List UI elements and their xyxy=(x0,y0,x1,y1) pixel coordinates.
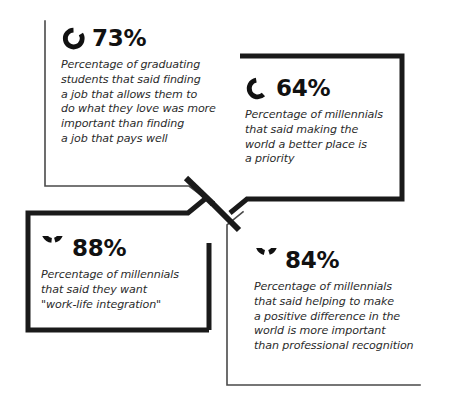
stat-block-73: 73% Percentage of graduating students th… xyxy=(61,26,229,147)
stat-value-64: 64% xyxy=(276,77,330,100)
stat-description-84: Percentage of millennials that said help… xyxy=(254,280,434,354)
gauge-ring-icon xyxy=(254,248,279,273)
infographic-canvas: 73% Percentage of graduating students th… xyxy=(0,0,449,414)
stat-heading-88: 88% xyxy=(41,236,207,261)
gauge-ring-icon xyxy=(61,26,86,51)
gauge-ring-icon xyxy=(245,76,270,101)
gauge-ring-icon xyxy=(41,236,66,261)
stat-value-73: 73% xyxy=(92,27,146,50)
stat-value-84: 84% xyxy=(285,249,339,272)
stat-heading-73: 73% xyxy=(61,26,229,51)
stat-block-88: 88% Percentage of millennials that said … xyxy=(41,236,207,312)
stat-description-88: Percentage of millennials that said they… xyxy=(41,268,207,312)
stat-value-88: 88% xyxy=(72,237,126,260)
hub-diagonal-upper xyxy=(186,178,213,204)
stat-description-73: Percentage of graduating students that s… xyxy=(61,58,229,147)
stat-description-64: Percentage of millennials that said maki… xyxy=(245,108,403,167)
stat-heading-64: 64% xyxy=(245,76,403,101)
stat-block-84: 84% Percentage of millennials that said … xyxy=(254,248,434,354)
stat-heading-84: 84% xyxy=(254,248,434,273)
stat-block-64: 64% Percentage of millennials that said … xyxy=(245,76,403,167)
